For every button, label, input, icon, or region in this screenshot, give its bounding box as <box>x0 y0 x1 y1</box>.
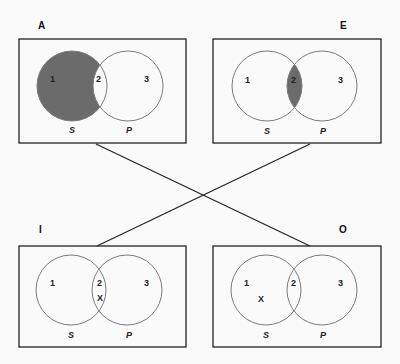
panel-i-set-s: S <box>68 330 74 340</box>
panel-o-label: O <box>339 224 347 235</box>
panel-i-circle-p <box>92 255 162 325</box>
panel-a-set-s: S <box>69 125 75 135</box>
panel-e-region-1: 1 <box>245 75 250 85</box>
panel-o-region-2: 2 <box>291 278 296 288</box>
panel-a: A 1 2 3 S P <box>19 20 186 143</box>
panel-o-x-mark: X <box>258 294 264 304</box>
panel-i-set-p: P <box>126 330 133 340</box>
panel-a-region-1: 1 <box>50 74 55 84</box>
panel-a-set-p: P <box>126 125 133 135</box>
panel-i: I 1 2 3 X S P <box>19 224 186 347</box>
panel-i-circle-s <box>36 255 106 325</box>
panel-i-region-2: 2 <box>97 278 102 288</box>
panel-i-x-mark: X <box>97 293 103 303</box>
connector-lines <box>96 144 310 246</box>
panel-e-set-p: P <box>320 126 327 136</box>
panel-e-region-3: 3 <box>338 75 343 85</box>
panel-o-set-s: S <box>263 330 269 340</box>
panel-a-label: A <box>38 20 45 31</box>
panel-a-region-3: 3 <box>144 74 149 84</box>
panel-o-circle-s <box>231 255 301 325</box>
panel-e: E 1 2 3 S P <box>213 20 381 143</box>
panel-i-label: I <box>39 224 42 235</box>
panel-o: O 1 2 3 X S P <box>213 224 381 347</box>
panel-o-region-1: 1 <box>244 278 249 288</box>
panel-e-region-2: 2 <box>291 75 296 85</box>
panel-o-region-3: 3 <box>338 278 343 288</box>
panel-o-circle-p <box>287 255 357 325</box>
panel-i-region-3: 3 <box>144 278 149 288</box>
panel-o-set-p: P <box>320 330 327 340</box>
panel-o-box <box>213 246 381 347</box>
square-of-opposition-diagram: A 1 2 3 S P E 1 2 3 S P I 1 2 3 X S P O <box>0 0 400 364</box>
panel-e-label: E <box>340 20 347 31</box>
panel-a-region-2: 2 <box>96 74 101 84</box>
panel-i-region-1: 1 <box>50 278 55 288</box>
panel-e-set-s: S <box>264 126 270 136</box>
